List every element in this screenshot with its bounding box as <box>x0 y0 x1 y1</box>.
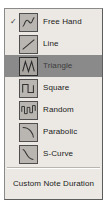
square-wave-icon <box>19 79 38 98</box>
menu-item-square[interactable]: Square <box>5 77 102 99</box>
freehand-curve-icon <box>19 13 38 32</box>
menu-item-label: Free Hand <box>43 17 82 27</box>
diagonal-line-icon <box>19 35 38 54</box>
menu-item-label: Custom Note Duration <box>13 179 94 188</box>
triangle-wave-icon <box>19 57 38 76</box>
menu-item-label: Triangle <box>43 61 72 71</box>
shape-menu-list: ✓ Free Hand Line <box>5 9 102 166</box>
random-wave-icon <box>19 101 38 120</box>
menu-item-triangle[interactable]: Triangle <box>5 55 102 77</box>
menu-item-free-hand[interactable]: ✓ Free Hand <box>5 11 102 33</box>
menu-item-line[interactable]: Line <box>5 33 102 55</box>
s-curve-icon <box>19 145 38 164</box>
menu-item-s-curve[interactable]: S-Curve <box>5 143 102 165</box>
check-icon: ✓ <box>7 11 19 33</box>
menu-item-parabolic[interactable]: Parabolic <box>5 121 102 143</box>
menu-item-custom-note-duration[interactable]: Custom Note Duration <box>5 169 102 199</box>
menu-item-label: Parabolic <box>43 127 77 137</box>
shape-menu-panel: ✓ Free Hand Line <box>4 8 103 200</box>
menu-item-random[interactable]: Random <box>5 99 102 121</box>
menu-item-label: Random <box>43 105 74 115</box>
menu-item-label: Square <box>43 83 69 93</box>
menu-item-label: Line <box>43 39 59 49</box>
parabolic-curve-icon <box>19 123 38 142</box>
menu-item-label: S-Curve <box>43 149 73 159</box>
